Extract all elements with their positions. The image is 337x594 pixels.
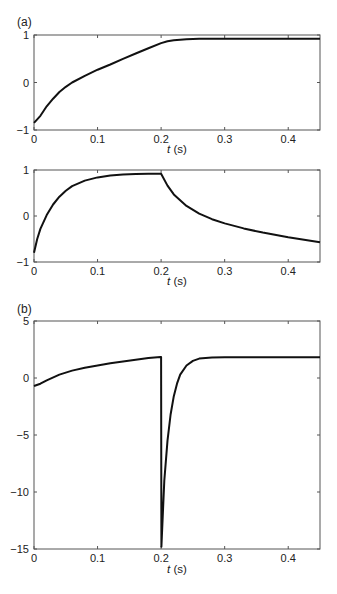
- y-tick-label: −15: [10, 543, 29, 555]
- y-tick-label: 0: [23, 210, 29, 222]
- y-tick-label: 1: [23, 29, 29, 41]
- x-tick-label: 0: [31, 265, 37, 277]
- x-tick-label: 0.3: [217, 133, 232, 145]
- y-tick-label: −10: [10, 486, 29, 498]
- x-tick-label: 0.4: [281, 133, 296, 145]
- y-tick-label: 0: [23, 372, 29, 384]
- x-tick-label: 0.1: [90, 552, 105, 564]
- y-tick-label: 5: [23, 315, 29, 327]
- x-axis-label: t (s): [167, 275, 187, 287]
- x-axis-label: t (s): [167, 563, 187, 575]
- x-tick-label: 0.3: [217, 552, 232, 564]
- x-tick-label: 0.4: [281, 552, 296, 564]
- axes-frame: [34, 321, 320, 549]
- x-tick-label: 0: [31, 133, 37, 145]
- y-tick-label: −1: [16, 256, 29, 268]
- y-tick-label: −1: [16, 124, 29, 136]
- y-tick-label: 1: [23, 164, 29, 176]
- y-tick-label: 0: [23, 77, 29, 89]
- data-line: [34, 39, 320, 123]
- x-tick-label: 0.3: [217, 265, 232, 277]
- data-line: [34, 357, 320, 547]
- panel-label-a: (a): [17, 15, 32, 29]
- x-tick-label: 0.4: [281, 265, 296, 277]
- x-tick-label: 0: [31, 552, 37, 564]
- data-line: [34, 174, 320, 253]
- x-tick-label: 0.1: [90, 133, 105, 145]
- y-tick-label: −5: [16, 429, 29, 441]
- plot-a-bottom: 00.10.20.30.4−101t (s): [16, 164, 320, 287]
- figure: (a) (b) 00.10.20.30.4−101t (s) 00.10.20.…: [0, 0, 337, 594]
- panel-label-b: (b): [17, 302, 32, 316]
- x-tick-label: 0.1: [90, 265, 105, 277]
- axes-frame: [34, 35, 320, 130]
- plot-b: 00.10.20.30.4−15−10−505t (s): [10, 315, 320, 575]
- x-axis-label: t (s): [167, 143, 187, 155]
- plot-a-top: 00.10.20.30.4−101t (s): [16, 29, 320, 155]
